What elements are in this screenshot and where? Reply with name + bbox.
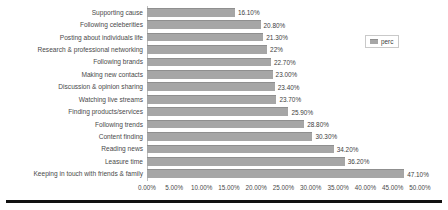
- x-axis-tick-label: 35.00%: [327, 183, 348, 192]
- bar: [147, 169, 404, 178]
- bar-row: 36.20%: [147, 157, 420, 166]
- bar-row: 23.40%: [147, 82, 420, 91]
- bar: [147, 95, 276, 104]
- x-axis-tick-label: 10.00%: [191, 183, 212, 192]
- bar: [147, 58, 271, 67]
- bar: [147, 33, 263, 42]
- category-label: Leasure time: [0, 158, 143, 165]
- bar-value-label: 30.30%: [312, 133, 337, 140]
- x-axis-tick-label: 20.00%: [246, 183, 267, 192]
- category-label: Following trends: [0, 121, 143, 128]
- bar: [147, 82, 275, 91]
- bar: [147, 145, 334, 154]
- bar: [147, 157, 345, 166]
- category-label: Reading news: [0, 145, 143, 152]
- bar-row: 16.10%: [147, 8, 420, 17]
- x-axis-tick-label: 50.00%: [409, 183, 430, 192]
- bar-chart: Supporting causeFollowing celeberitiesPo…: [0, 0, 448, 210]
- bar-value-label: 23.40%: [275, 83, 300, 90]
- bar-value-label: 25.90%: [288, 108, 313, 115]
- bar-value-label: 23.70%: [276, 96, 301, 103]
- category-label: Making new contacts: [0, 71, 143, 78]
- bar: [147, 8, 235, 17]
- bar: [147, 120, 304, 129]
- category-label: Posting about individuals life: [0, 34, 143, 41]
- legend-swatch-perc: [370, 39, 378, 44]
- category-axis-labels: Supporting causeFollowing celeberitiesPo…: [0, 6, 143, 180]
- category-label: Supporting cause: [0, 9, 143, 16]
- bar: [147, 45, 267, 54]
- bar-row: 47.10%: [147, 169, 420, 178]
- category-label: Finding products/services: [0, 108, 143, 115]
- bar-value-label: 21.30%: [263, 34, 288, 41]
- value-axis-ticks: 0.00%5.00%10.00%15.00%20.00%25.00%30.00%…: [147, 183, 420, 195]
- plot-area: 16.10%20.80%21.30%22%22.70%23.00%23.40%2…: [147, 6, 420, 180]
- bar-row: 28.80%: [147, 120, 420, 129]
- bar: [147, 70, 273, 79]
- bar-value-label: 20.80%: [261, 21, 286, 28]
- bar-value-label: 47.10%: [404, 170, 429, 177]
- category-label: Research & professional networking: [0, 46, 143, 53]
- bar-row: 22.70%: [147, 58, 420, 67]
- category-label: Content finding: [0, 133, 143, 140]
- x-axis-tick-label: 5.00%: [165, 183, 183, 192]
- bar: [147, 132, 312, 141]
- category-label: Keeping in touch with friends & family: [0, 170, 143, 177]
- bar-row: 23.70%: [147, 95, 420, 104]
- bar-value-label: 36.20%: [345, 158, 370, 165]
- x-axis-tick-label: 0.00%: [138, 183, 156, 192]
- category-label: Following celeberities: [0, 21, 143, 28]
- bar-row: 34.20%: [147, 145, 420, 154]
- bar-row: 23.00%: [147, 70, 420, 79]
- x-axis-tick-label: 30.00%: [300, 183, 321, 192]
- category-label: Watching live streams: [0, 96, 143, 103]
- x-axis-tick-label: 15.00%: [218, 183, 239, 192]
- x-axis-tick-label: 45.00%: [382, 183, 403, 192]
- bar-value-label: 28.80%: [304, 121, 329, 128]
- x-axis-tick-label: 25.00%: [273, 183, 294, 192]
- bar: [147, 107, 288, 116]
- bottom-divider: [6, 200, 442, 203]
- bar-value-label: 22.70%: [271, 58, 296, 65]
- category-label: Discussion & opinion sharing: [0, 83, 143, 90]
- bar-value-label: 23.00%: [273, 71, 298, 78]
- bar-value-label: 22%: [267, 46, 283, 53]
- bar-row: 30.30%: [147, 132, 420, 141]
- bar-value-label: 16.10%: [235, 9, 260, 16]
- x-axis-tick-label: 40.00%: [355, 183, 376, 192]
- bar-row: 20.80%: [147, 20, 420, 29]
- legend-label-perc: perc: [381, 38, 393, 45]
- category-label: Following brands: [0, 58, 143, 65]
- bar-row: 25.90%: [147, 107, 420, 116]
- bar-value-label: 34.20%: [334, 145, 359, 152]
- chart-legend: perc: [365, 35, 399, 48]
- bar: [147, 20, 261, 29]
